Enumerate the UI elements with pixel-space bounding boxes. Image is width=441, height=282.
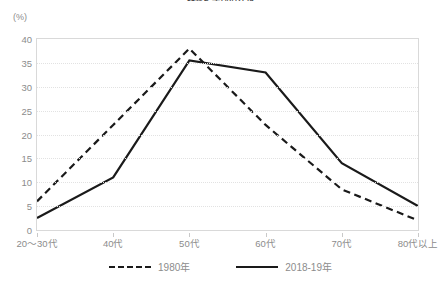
x-tick-label: 40代 — [103, 236, 124, 250]
gridline — [37, 135, 418, 136]
x-tick-label: 70代 — [332, 236, 353, 250]
y-tick-label: 30 — [2, 81, 32, 92]
y-tick-label: 15 — [2, 153, 32, 164]
x-tick-label: 80代以上 — [398, 236, 439, 250]
y-tick-label: 35 — [2, 57, 32, 68]
plot-area — [36, 38, 419, 231]
y-tick-label: 25 — [2, 105, 32, 116]
gridline — [37, 111, 418, 112]
gridline — [37, 87, 418, 88]
legend-item-1[interactable]: 1980年 — [109, 259, 190, 274]
gridline — [37, 158, 418, 159]
x-tick-label: 60代 — [255, 236, 276, 250]
x-tick-label: 20〜30代 — [16, 236, 57, 250]
legend-swatch-icon — [236, 266, 278, 268]
x-tick-label: 50代 — [179, 236, 200, 250]
legend-label: 2018-19年 — [285, 259, 332, 274]
chart-container: 図表2 年代別分布 (%) 0510152025303540 20〜30代40代… — [0, 0, 441, 282]
gridline — [37, 182, 418, 183]
y-tick-label: 5 — [2, 201, 32, 212]
y-axis-unit-label: (%) — [13, 12, 27, 22]
legend-swatch-icon — [109, 266, 151, 268]
y-tick-label: 10 — [2, 177, 32, 188]
plot-inner — [37, 39, 418, 230]
gridline — [37, 206, 418, 207]
legend-item-2[interactable]: 2018-19年 — [236, 259, 332, 274]
x-axis-labels: 20〜30代40代50代60代70代80代以上 — [36, 233, 419, 253]
series-line-2 — [37, 60, 418, 218]
y-tick-label: 0 — [2, 225, 32, 236]
y-axis-labels: 0510152025303540 — [0, 38, 32, 231]
gridline — [37, 63, 418, 64]
y-tick-label: 40 — [2, 34, 32, 45]
chart-legend: 1980年2018-19年 — [0, 259, 441, 274]
legend-label: 1980年 — [158, 259, 190, 274]
y-tick-label: 20 — [2, 129, 32, 140]
chart-title: 図表2 年代別分布 — [0, 0, 441, 1]
